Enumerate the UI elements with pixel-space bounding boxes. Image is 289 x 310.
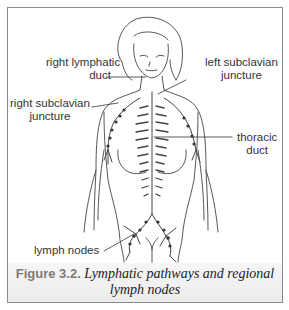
caption-text-1: Lymphatic pathways and regional bbox=[81, 266, 275, 281]
label-thoracic-duct: thoracic duct bbox=[237, 131, 277, 157]
label-left-subclavian-juncture: left subclavian juncture bbox=[205, 56, 278, 82]
face bbox=[134, 44, 169, 78]
label-right-subclavian-juncture: right subclavian juncture bbox=[10, 97, 90, 123]
figure-caption: Figure 3.2. Lymphatic pathways and regio… bbox=[8, 266, 282, 298]
figure-number: Figure 3.2. bbox=[16, 266, 81, 281]
caption-line-2: lymph nodes bbox=[8, 282, 282, 298]
torso-outline bbox=[84, 76, 218, 262]
label-lymph-nodes: lymph nodes bbox=[34, 244, 99, 257]
label-right-lymphatic-duct: right lymphatic duct bbox=[46, 56, 120, 82]
lymph-vessels bbox=[104, 92, 200, 262]
lymph-node-dots bbox=[106, 108, 195, 247]
caption-line-1: Figure 3.2. Lymphatic pathways and regio… bbox=[8, 266, 282, 282]
caption-text-2: lymph nodes bbox=[110, 282, 180, 297]
